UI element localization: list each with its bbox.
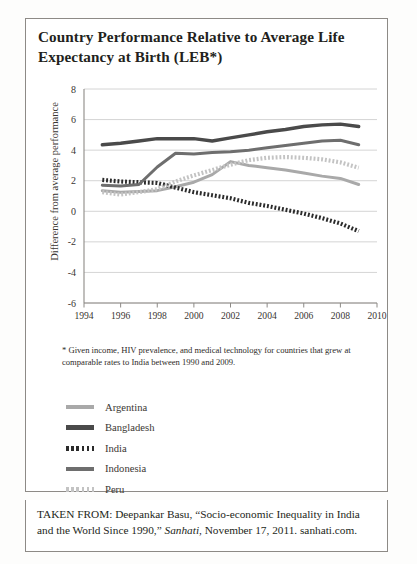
y-tick-label: -4 — [68, 267, 76, 278]
legend-item-peru: Peru — [66, 479, 346, 500]
y-tick-label: 4 — [71, 145, 76, 156]
series-line-argentina — [102, 162, 358, 193]
y-tick-label: 0 — [71, 206, 76, 217]
x-tick-label: 1996 — [111, 310, 130, 321]
legend-item-bangladesh: Bangladesh — [66, 418, 346, 439]
y-tick-label: 8 — [71, 84, 76, 95]
x-tick-label: 2000 — [184, 310, 203, 321]
legend-label: Peru — [105, 484, 124, 495]
x-tick-label: 2004 — [258, 310, 277, 321]
legend-item-indonesia: Indonesia — [66, 459, 346, 480]
line-chart: 86420-2-4-619941996199820002002200420062… — [26, 81, 389, 341]
legend-swatch-bangladesh — [66, 425, 94, 430]
y-axis-label: Difference from average performance — [49, 82, 60, 282]
page-title: Country Performance Relative to Average … — [38, 27, 368, 67]
legend-label: India — [105, 443, 127, 454]
footnote-text: * Given income, HIV prevalence, and medi… — [62, 344, 372, 369]
x-tick-label: 1994 — [74, 310, 93, 321]
figure-page: Country Performance Relative to Average … — [0, 0, 417, 564]
legend-swatch-peru — [66, 487, 94, 492]
x-tick-label: 2010 — [367, 310, 386, 321]
x-tick-label: 2002 — [221, 310, 240, 321]
legend-swatch-india — [66, 446, 94, 451]
y-tick-label: -6 — [68, 298, 76, 309]
y-tick-label: 6 — [71, 114, 76, 125]
source-attribution: TAKEN FROM: Deepankar Basu, “Socio-econo… — [25, 500, 388, 552]
chart-panel: Country Performance Relative to Average … — [25, 18, 388, 492]
x-tick-label: 1998 — [148, 310, 167, 321]
legend-swatch-indonesia — [66, 467, 94, 471]
source-publication: Sanhati — [165, 524, 200, 536]
x-tick-label: 2008 — [331, 310, 350, 321]
x-tick-label: 2006 — [294, 310, 313, 321]
legend-item-argentina: Argentina — [66, 397, 346, 418]
y-tick-label: 2 — [71, 175, 76, 186]
y-tick-label: -2 — [68, 236, 76, 247]
legend-label: Bangladesh — [105, 422, 154, 433]
legend-label: Argentina — [105, 402, 147, 413]
legend-item-india: India — [66, 438, 346, 459]
chart-area: Difference from average performance 8642… — [26, 81, 389, 341]
legend-label: Indonesia — [105, 463, 146, 474]
source-suffix: , November 17, 2011. sanhati.com. — [199, 524, 357, 536]
chart-legend: ArgentinaBangladeshIndiaIndonesiaPeru — [66, 397, 346, 500]
series-line-india — [102, 180, 358, 231]
legend-swatch-argentina — [66, 405, 94, 409]
